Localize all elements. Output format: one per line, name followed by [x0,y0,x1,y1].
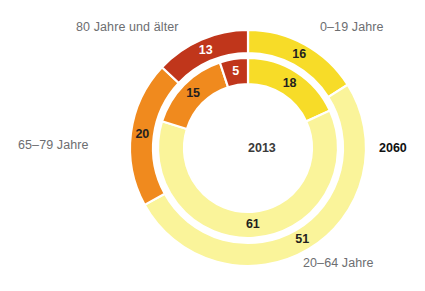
segment-value-label: 5 [232,64,239,78]
donut-chart: 16512013 1861155 80 Jahre und älter 0–19… [0,0,425,291]
category-label-20-64: 20–64 Jahre [303,256,374,270]
segment-value-label: 18 [283,76,297,90]
segment-value-label: 20 [135,127,149,141]
segment-value-label: 13 [199,43,213,57]
segment-value-label: 15 [186,86,200,100]
segment-value-label: 51 [295,232,309,246]
category-label-65-79: 65–79 Jahre [18,138,89,152]
category-label-0-19: 0–19 Jahre [320,20,384,34]
segment-value-label: 16 [292,47,306,61]
year-label-2013: 2013 [248,141,276,155]
segment-value-label: 61 [246,217,260,231]
year-label-2060: 2060 [379,141,407,155]
category-label-80-plus: 80 Jahre und älter [76,20,179,34]
